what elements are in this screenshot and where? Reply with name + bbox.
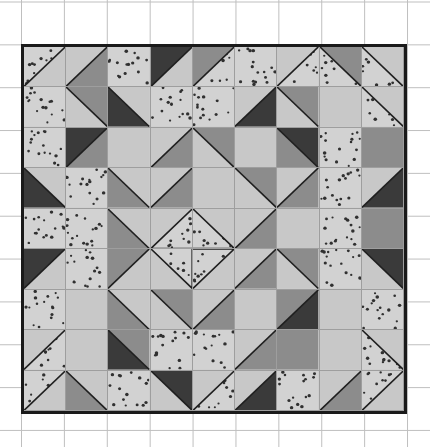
quilt-cell-r1-c6 xyxy=(235,47,277,87)
quilt-cell-r3-c5 xyxy=(193,128,235,168)
quilt-cell-r8-c4 xyxy=(151,330,193,370)
quilt-cell-r1-c3 xyxy=(108,47,150,87)
quilt-cell-r9-c2 xyxy=(66,371,108,411)
quilt-cell-r4-c2 xyxy=(66,168,108,208)
quilt-cell-r5-c8 xyxy=(320,209,362,249)
quilt-cell-r1-c7 xyxy=(277,47,319,87)
quilt-cell-r1-c5 xyxy=(193,47,235,87)
quilt-cell-r8-c6 xyxy=(235,330,277,370)
quilt-cell-r6-c9 xyxy=(362,249,404,289)
quilt-cell-r6-c4 xyxy=(151,249,193,289)
quilt-cell-r1-c9 xyxy=(362,47,404,87)
quilt-cell-r9-c7 xyxy=(277,371,319,411)
quilt-cell-r3-c9 xyxy=(362,128,404,168)
quilt-cell-r6-c7 xyxy=(277,249,319,289)
quilt-cell-r2-c2 xyxy=(66,87,108,127)
quilt-cell-r9-c5 xyxy=(193,371,235,411)
quilt-cell-r8-c9 xyxy=(362,330,404,370)
quilt-cell-r2-c1 xyxy=(24,87,66,127)
quilt-block-grid xyxy=(21,44,407,414)
quilt-cell-r5-c5 xyxy=(193,209,235,249)
quilt-cell-r8-c1 xyxy=(24,330,66,370)
quilt-cell-r1-c2 xyxy=(66,47,108,87)
quilt-cell-r8-c8 xyxy=(320,330,362,370)
quilt-cell-r8-c2 xyxy=(66,330,108,370)
quilt-cell-r1-c1 xyxy=(24,47,66,87)
quilt-cell-r6-c3 xyxy=(108,249,150,289)
quilt-cell-r4-c5 xyxy=(193,168,235,208)
quilt-cell-r8-c5 xyxy=(193,330,235,370)
quilt-cell-r6-c2 xyxy=(66,249,108,289)
quilt-cell-r6-c8 xyxy=(320,249,362,289)
quilt-cell-r2-c5 xyxy=(193,87,235,127)
quilt-cell-r7-c6 xyxy=(235,290,277,330)
quilt-cell-r5-c3 xyxy=(108,209,150,249)
quilt-cell-r8-c7 xyxy=(277,330,319,370)
quilt-cell-r3-c8 xyxy=(320,128,362,168)
quilt-cell-r9-c6 xyxy=(235,371,277,411)
quilt-cell-r2-c3 xyxy=(108,87,150,127)
quilt-cell-r4-c3 xyxy=(108,168,150,208)
quilt-cell-r2-c6 xyxy=(235,87,277,127)
quilt-cell-r7-c8 xyxy=(320,290,362,330)
quilt-cell-r4-c8 xyxy=(320,168,362,208)
quilt-cell-r9-c3 xyxy=(108,371,150,411)
quilt-cell-r2-c4 xyxy=(151,87,193,127)
quilt-cell-r3-c2 xyxy=(66,128,108,168)
quilt-cell-r4-c1 xyxy=(24,168,66,208)
quilt-cell-r2-c9 xyxy=(362,87,404,127)
quilt-cell-r3-c1 xyxy=(24,128,66,168)
quilt-cell-r7-c4 xyxy=(151,290,193,330)
quilt-cell-r1-c8 xyxy=(320,47,362,87)
quilt-cell-r3-c4 xyxy=(151,128,193,168)
quilt-cell-r7-c3 xyxy=(108,290,150,330)
quilt-cell-r5-c9 xyxy=(362,209,404,249)
quilt-cell-r4-c7 xyxy=(277,168,319,208)
quilt-cell-r8-c3 xyxy=(108,330,150,370)
quilt-cell-r4-c9 xyxy=(362,168,404,208)
quilt-cell-r9-c8 xyxy=(320,371,362,411)
quilt-cell-r2-c7 xyxy=(277,87,319,127)
quilt-cell-r5-c1 xyxy=(24,209,66,249)
quilt-cell-r9-c1 xyxy=(24,371,66,411)
quilt-cell-r3-c6 xyxy=(235,128,277,168)
quilt-cell-r4-c6 xyxy=(235,168,277,208)
quilt-cell-r6-c1 xyxy=(24,249,66,289)
quilt-cell-r2-c8 xyxy=(320,87,362,127)
quilt-cell-r9-c9 xyxy=(362,371,404,411)
quilt-cell-r9-c4 xyxy=(151,371,193,411)
quilt-cell-r7-c7 xyxy=(277,290,319,330)
quilt-cell-r7-c1 xyxy=(24,290,66,330)
quilt-cell-r7-c5 xyxy=(193,290,235,330)
quilt-cell-r5-c7 xyxy=(277,209,319,249)
quilt-cell-r3-c7 xyxy=(277,128,319,168)
quilt-cell-r7-c9 xyxy=(362,290,404,330)
quilt-cell-r5-c6 xyxy=(235,209,277,249)
quilt-cell-r7-c2 xyxy=(66,290,108,330)
quilt-cell-r6-c6 xyxy=(235,249,277,289)
quilt-cell-r5-c2 xyxy=(66,209,108,249)
quilt-cell-r6-c5 xyxy=(193,249,235,289)
quilt-diagram-stage xyxy=(0,0,430,447)
quilt-cell-r4-c4 xyxy=(151,168,193,208)
quilt-cell-r3-c3 xyxy=(108,128,150,168)
quilt-cell-r1-c4 xyxy=(151,47,193,87)
quilt-cell-r5-c4 xyxy=(151,209,193,249)
